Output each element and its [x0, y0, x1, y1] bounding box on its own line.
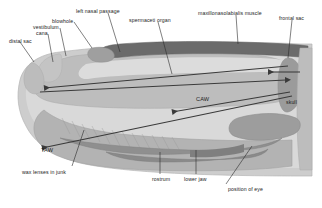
label-left-nasal-passage: left nasal passage [76, 9, 120, 14]
label-wax-lenses-in-junk: wax lenses in junk [22, 170, 66, 175]
label-frontal-sac: frontal sac [279, 16, 304, 21]
label-skull: skull [286, 100, 297, 105]
diagram-canvas: distal sac cana vestibulum blowhole left… [0, 0, 322, 208]
blowhole-shape [88, 47, 115, 62]
label-rostrum: rostrum [152, 177, 170, 182]
label-cana: cana [36, 31, 48, 36]
rear-body-block [297, 48, 312, 170]
label-spermaceti-organ: spermaceti organ [129, 18, 171, 23]
leader-maxillonasolabialis [236, 15, 238, 44]
label-position-of-eye: position of eye [228, 187, 263, 192]
label-lower-jaw: lower jaw [184, 177, 207, 182]
label-caw: CAW [196, 97, 209, 103]
label-vestibulum: vestibulum [33, 25, 59, 30]
label-distal-sac: distal sac [9, 39, 32, 44]
label-taw: TAW [41, 148, 53, 154]
leader-distal-sac [20, 42, 34, 62]
label-maxillonasolabialis-muscle: maxillonasolabialis muscle [198, 11, 262, 16]
label-blowhole: blowhole [52, 19, 73, 24]
leader-blowhole [74, 22, 92, 48]
